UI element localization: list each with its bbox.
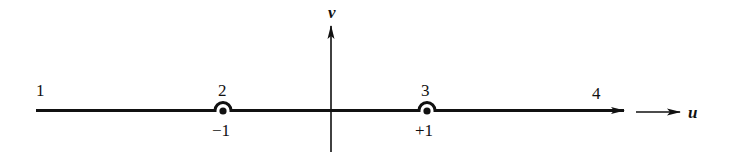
tick-label-minus-one: −1 [212, 121, 230, 140]
region-label-2: 2 [218, 81, 227, 100]
contour-path [36, 103, 624, 111]
region-label-4: 4 [592, 84, 601, 103]
v-axis-label: v [328, 3, 336, 22]
pole-plus-one-icon [423, 107, 430, 114]
region-label-1: 1 [36, 81, 45, 100]
u-axis-label: u [688, 103, 697, 122]
contour-diagram: v u 1 2 3 4 −1 +1 [0, 0, 730, 154]
pole-minus-one-icon [219, 107, 226, 114]
tick-label-plus-one: +1 [415, 121, 433, 140]
region-label-3: 3 [421, 81, 430, 100]
